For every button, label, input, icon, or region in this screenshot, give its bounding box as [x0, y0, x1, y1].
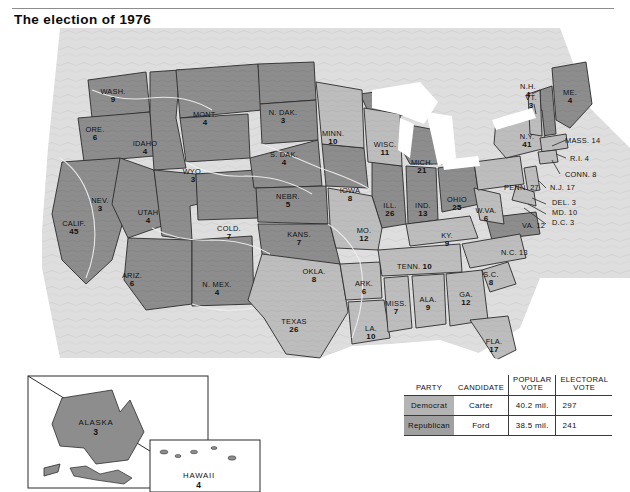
electoral-vote-value: 297 — [556, 395, 612, 415]
state-la — [348, 300, 390, 344]
results-table-body: DemocratCarter40.2 mil.297RepublicanFord… — [404, 395, 612, 435]
electoral-vote-line-2: VOTE — [560, 384, 608, 392]
state-ore — [78, 112, 154, 162]
state-ala — [412, 274, 446, 328]
state-mont — [176, 64, 262, 118]
state-wisc — [364, 108, 402, 166]
results-table: PARTY CANDIDATE POPULAR VOTE ELECTORAL V… — [404, 375, 612, 436]
results-table-head: PARTY CANDIDATE POPULAR VOTE ELECTORAL V… — [404, 375, 612, 395]
party-swatch-democrat: Democrat — [404, 395, 454, 415]
election-results-legend: PARTY CANDIDATE POPULAR VOTE ELECTORAL V… — [404, 375, 612, 436]
state-colo — [196, 170, 258, 220]
table-header-row: PARTY CANDIDATE POPULAR VOTE ELECTORAL V… — [404, 375, 612, 395]
state-ga — [446, 270, 488, 326]
state-ndak — [258, 62, 316, 104]
column-header-electoral-vote: ELECTORAL VOTE — [556, 375, 612, 395]
hawaii-inset-frame — [150, 440, 260, 492]
column-header-party: PARTY — [404, 375, 454, 395]
table-row: RepublicanFord38.5 mil.241 — [404, 415, 612, 435]
state-penn — [474, 156, 524, 190]
state-conn — [538, 150, 558, 164]
state-minn — [316, 82, 364, 148]
state-ind — [406, 166, 438, 224]
title-divider — [12, 8, 614, 9]
table-row: DemocratCarter40.2 mil.297 — [404, 395, 612, 415]
state-wyo — [180, 114, 250, 162]
state-wash — [88, 72, 150, 118]
state-iowa — [322, 144, 368, 188]
state-sdak — [260, 100, 318, 144]
page-title: The election of 1976 — [14, 12, 151, 27]
state-nmex — [192, 236, 254, 306]
column-header-popular-vote: POPULAR VOTE — [509, 375, 556, 395]
candidate-name: Carter — [454, 395, 509, 415]
state-kans — [256, 186, 328, 224]
state-miss — [384, 276, 412, 332]
popular-vote-line-2: VOTE — [513, 384, 551, 392]
candidate-name: Ford — [454, 415, 509, 435]
popular-vote-value: 40.2 mil. — [509, 395, 556, 415]
state-tenn — [378, 244, 462, 276]
electoral-vote-value: 241 — [556, 415, 612, 435]
party-swatch-republican: Republican — [404, 415, 454, 435]
popular-vote-value: 38.5 mil. — [509, 415, 556, 435]
column-header-candidate: CANDIDATE — [454, 375, 509, 395]
